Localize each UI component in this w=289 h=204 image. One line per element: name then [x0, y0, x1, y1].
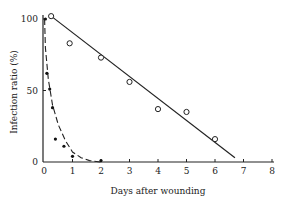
- x-tick-label: 5: [184, 166, 190, 176]
- filled-dot-point: [54, 138, 57, 141]
- x-tick-label: 1: [70, 166, 76, 176]
- y-tick-label: 50: [27, 86, 39, 96]
- filled-dot-point: [51, 106, 54, 109]
- linear-fit-line: [51, 16, 235, 158]
- x-tick-label: 4: [155, 166, 161, 176]
- data-points: [44, 14, 218, 163]
- filled-dot-point: [44, 17, 47, 20]
- filled-dot-point: [71, 155, 74, 158]
- filled-dot-point: [62, 145, 65, 148]
- y-tick-label: 100: [21, 14, 38, 24]
- open-circle-point: [212, 137, 217, 142]
- x-tick-label: 2: [98, 166, 104, 176]
- open-circle-point: [49, 14, 54, 19]
- fit-lines: [45, 16, 235, 162]
- x-tick-label: 3: [127, 166, 133, 176]
- x-tick-label: 7: [241, 166, 247, 176]
- axes: 012345678050100: [21, 14, 275, 176]
- y-axis-title: Infection ratio (%): [9, 50, 19, 134]
- open-circle-point: [184, 109, 189, 114]
- decay-fit-curve: [45, 19, 101, 162]
- x-axis-title: Days after wounding: [111, 186, 206, 196]
- filled-dot-point: [99, 159, 102, 162]
- y-tick-label: 0: [32, 157, 38, 167]
- infection-ratio-chart: 012345678050100 Days after wounding Infe…: [0, 0, 289, 204]
- open-circle-point: [127, 79, 132, 84]
- open-circle-point: [155, 106, 160, 111]
- x-tick-label: 0: [41, 166, 47, 176]
- open-circle-point: [98, 55, 103, 60]
- x-tick-label: 8: [269, 166, 275, 176]
- open-circle-point: [67, 41, 72, 46]
- filled-dot-point: [45, 72, 48, 75]
- filled-dot-point: [48, 87, 51, 90]
- x-tick-label: 6: [212, 166, 218, 176]
